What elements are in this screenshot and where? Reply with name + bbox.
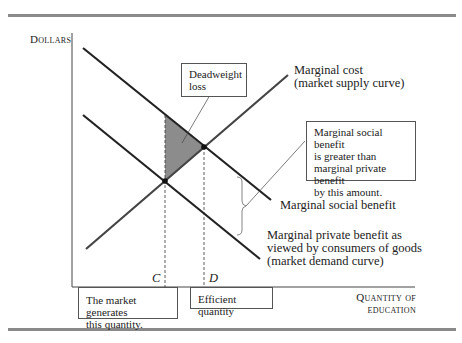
market-line1: The market generates [86,294,170,318]
efficient-label: Efficient quantity [198,293,265,317]
gap-line4: by this amount. [314,186,408,198]
deadweight-loss-area [165,115,204,181]
point-d-label: D [209,272,218,285]
deadweight-line2: loss [189,80,239,92]
msb-label: Marginal social benefit [280,199,396,212]
y-axis-label: Dollars [30,33,71,46]
deadweight-leader [182,95,210,143]
efficient-equilibrium-point [201,144,207,150]
marginal-cost-label-line2: (market supply curve) [294,77,404,90]
gap-brace [237,177,246,235]
market-equilibrium-point [162,178,168,184]
market-line2: this quantity. [86,318,170,330]
gap-line1: Marginal social benefit [314,126,408,150]
gap-callout: Marginal social benefit is greater than … [306,121,416,181]
deadweight-loss-callout: Deadweight loss [181,63,247,97]
x-axis-label-line2: education [352,303,416,316]
gap-leader [246,141,305,206]
marginal-cost-curve [86,75,288,249]
efficient-quantity-callout: Efficient quantity [190,287,273,309]
market-quantity-callout: The market generates this quantity. [78,287,178,319]
deadweight-line1: Deadweight [189,68,239,80]
gap-line3: marginal private benefit [314,162,408,186]
mpb-label-line3: (market demand curve) [267,255,384,268]
gap-line2: is greater than [314,150,408,162]
point-c-label: C [152,272,160,285]
